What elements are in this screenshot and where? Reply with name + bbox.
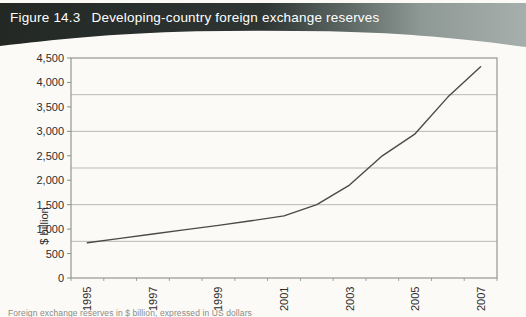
x-tick-label: 2005	[409, 287, 421, 311]
y-tick-label: 3,500	[36, 101, 64, 113]
x-tick-label: 2007	[475, 287, 487, 311]
figure-note: Foreign exchange reserves in $ billion, …	[8, 308, 252, 317]
y-axis-title: $ billion	[38, 207, 50, 244]
reserves-line-series	[87, 67, 480, 243]
y-tick-label: 500	[46, 248, 64, 260]
y-tick-label: 2,000	[36, 174, 64, 186]
y-tick-label: 4,500	[36, 52, 64, 64]
book-page: Figure 14.3Developing-country foreign ex…	[0, 0, 526, 317]
x-tick-label: 2001	[278, 287, 290, 311]
y-tick-label: 2,500	[36, 150, 64, 162]
y-tick-label: 4,000	[36, 76, 64, 88]
y-tick-label: 3,000	[36, 125, 64, 137]
line-chart: 05001,0001,5002,0002,5003,0003,5004,0004…	[0, 0, 526, 317]
y-tick-label: 0	[58, 272, 64, 284]
x-tick-label: 2003	[344, 287, 356, 311]
